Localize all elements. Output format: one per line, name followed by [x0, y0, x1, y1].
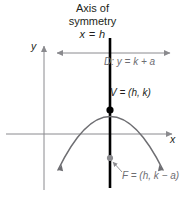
directrix-label: D: y = k + a	[104, 56, 155, 68]
parabola-diagram: Axis of symmetry x = h y x D: y = k + a …	[0, 0, 185, 200]
x-axis-label: x	[170, 133, 175, 145]
title-line-1: Axis of	[0, 2, 185, 15]
focus-point	[107, 155, 113, 161]
axis-of-symmetry-equation: x = h	[0, 28, 185, 41]
axis-of-symmetry-title: Axis of symmetry x = h	[0, 2, 185, 41]
title-line-2: symmetry	[0, 15, 185, 28]
y-axis-label: y	[31, 40, 36, 52]
focus-leader-line	[113, 162, 122, 172]
vertex-point	[106, 106, 113, 113]
focus-label: F = (h, k − a)	[122, 170, 179, 182]
vertex-label: V = (h, k)	[110, 87, 151, 99]
